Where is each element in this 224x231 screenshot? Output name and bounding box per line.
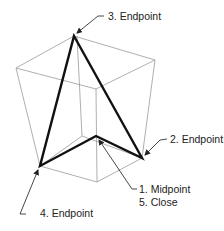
box-edge <box>40 166 97 182</box>
box-edge <box>16 36 74 68</box>
label-2-endpoint: 2. Endpoint <box>170 133 223 145</box>
leader-3-endpoint <box>77 16 104 33</box>
label-1-midpoint: 1. Midpoint <box>139 183 190 195</box>
box-diagram: 3. Endpoint 2. Endpoint 1. Midpoint 5. C… <box>0 0 224 231</box>
box-edge <box>16 68 96 89</box>
label-4-endpoint: 4. Endpoint <box>40 207 93 219</box>
leader-4-endpoint <box>20 170 38 214</box>
drawn-shape <box>40 36 142 166</box>
box-edge <box>16 68 40 166</box>
label-5-close: 5. Close <box>139 196 178 208</box>
leader-2-endpoint <box>145 139 167 155</box>
box-edge <box>142 60 155 158</box>
label-3-endpoint: 3. Endpoint <box>108 10 161 22</box>
box-edge <box>96 60 155 89</box>
